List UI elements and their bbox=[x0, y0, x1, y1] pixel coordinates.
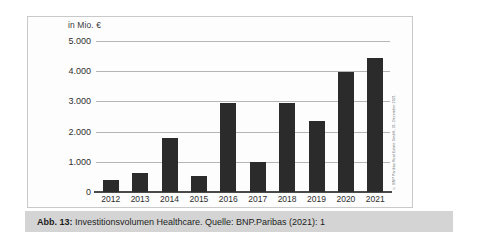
x-tick-label-2013: 2013 bbox=[131, 194, 150, 204]
x-tick-label-2021: 2021 bbox=[366, 194, 385, 204]
y-tick-label-5000: 5.000 bbox=[68, 36, 91, 46]
x-tick-label-2016: 2016 bbox=[219, 194, 238, 204]
y-axis-tick-labels: 01.0002.0003.0004.0005.000 bbox=[48, 41, 91, 192]
caption-text: Abb. 13: Investitionsvolumen Healthcare.… bbox=[25, 217, 325, 227]
caption-figure-number: Abb. 13: bbox=[37, 217, 73, 227]
y-axis-unit-label: in Mio. € bbox=[68, 20, 101, 30]
x-tick-label-2018: 2018 bbox=[278, 194, 297, 204]
y-tick-label-1000: 1.000 bbox=[68, 157, 91, 167]
bar-2021[interactable] bbox=[367, 58, 383, 192]
bar-2014[interactable] bbox=[162, 138, 178, 192]
y-tick-label-2000: 2.000 bbox=[68, 127, 91, 137]
x-axis-tick-labels: 2012201320142015201620172018201920202021 bbox=[96, 194, 390, 208]
y-tick-label-3000: 3.000 bbox=[68, 96, 91, 106]
bars-layer bbox=[96, 41, 390, 192]
x-tick-label-2020: 2020 bbox=[336, 194, 355, 204]
caption-description: Investitionsvolumen Healthcare. Quelle: … bbox=[73, 217, 325, 227]
figure-container: in Mio. € 01.0002.0003.0004.0005.000 201… bbox=[0, 0, 477, 241]
bar-2013[interactable] bbox=[132, 173, 148, 192]
x-tick-label-2017: 2017 bbox=[248, 194, 267, 204]
chart-credit-text: © BNP Paribas Real Estate GmbH, 31. Deze… bbox=[392, 62, 402, 190]
bar-2018[interactable] bbox=[279, 103, 295, 192]
x-tick-label-2019: 2019 bbox=[307, 194, 326, 204]
y-tick-label-4000: 4.000 bbox=[68, 66, 91, 76]
x-tick-label-2012: 2012 bbox=[101, 194, 120, 204]
x-tick-label-2014: 2014 bbox=[160, 194, 179, 204]
bar-2017[interactable] bbox=[250, 162, 266, 192]
caption-bar: Abb. 13: Investitionsvolumen Healthcare.… bbox=[25, 211, 453, 232]
x-tick-label-2015: 2015 bbox=[189, 194, 208, 204]
bar-2016[interactable] bbox=[220, 103, 236, 192]
bar-2019[interactable] bbox=[309, 121, 325, 192]
bar-2012[interactable] bbox=[103, 180, 119, 192]
y-tick-label-0: 0 bbox=[86, 187, 91, 197]
bar-2020[interactable] bbox=[338, 72, 354, 192]
bar-2015[interactable] bbox=[191, 176, 207, 192]
